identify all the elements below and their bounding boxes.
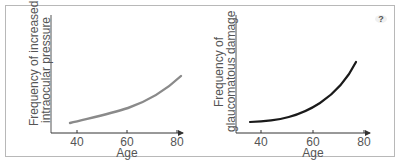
left-x-axis-label: Age [116, 146, 138, 160]
right-y-axis-label-line2: glaucomatous damage [224, 10, 238, 132]
left-chart: 40 60 80 Age Frequency of increased intr… [27, 1, 184, 160]
left-y-axis-label-line2: intraocular pressure [39, 17, 53, 123]
figure-canvas: 40 60 80 Age Frequency of increased intr… [0, 0, 402, 167]
left-curve-intraocular-pressure [70, 76, 181, 123]
left-x-tick-40: 40 [70, 135, 84, 149]
corner-marker-glyph: ? [378, 14, 384, 24]
right-x-axis-label: Age [302, 146, 324, 160]
right-chart: 40 60 80 Age Frequency of glaucomatous d… [212, 10, 371, 160]
right-curve-glaucomatous-damage [250, 62, 356, 122]
right-x-tick-80: 80 [357, 135, 371, 149]
right-x-tick-40: 40 [254, 135, 268, 149]
left-x-tick-80: 80 [170, 135, 184, 149]
corner-marker-icon: ? [375, 14, 387, 24]
